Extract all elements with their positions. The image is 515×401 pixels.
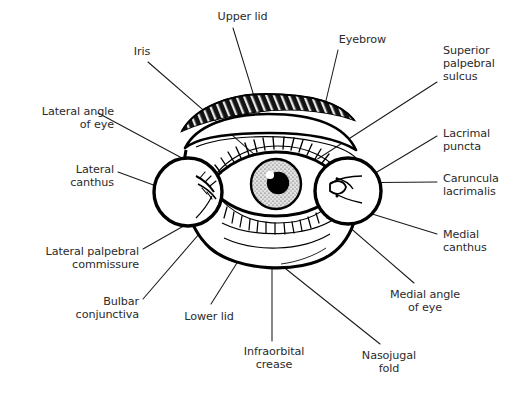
corneal-highlight (266, 171, 274, 179)
medial-canthus-inset (315, 158, 381, 224)
label-bulbar-conjunctiva: Bulbar conjunctiva (58, 295, 139, 321)
label-eyebrow: Eyebrow (325, 33, 400, 46)
label-lower-lid: Lower lid (168, 310, 250, 323)
label-nasojugal-fold: Nasojugal fold (345, 349, 433, 375)
label-infraorbital-crease: Infraorbital crease (225, 345, 323, 371)
label-upper-lid: Upper lid (190, 10, 295, 23)
label-lateral-angle-of-eye: Lateral angle of eye (6, 105, 114, 131)
label-caruncula-lacrimalis: Caruncula lacrimalis (443, 172, 515, 198)
label-lateral-canthus: Lateral canthus (30, 163, 114, 189)
label-lateral-palpebral-commissure: Lateral palpebral commissure (2, 245, 139, 271)
label-lacrimal-puncta: Lacrimal puncta (443, 127, 515, 153)
label-medial-angle-of-eye: Medial angle of eye (373, 288, 477, 314)
eye-illustration (0, 0, 515, 401)
lateral-canthus-inset (154, 158, 222, 226)
leader-eyebrow (324, 50, 338, 109)
label-superior-palpebral-sulcus: Superior palpebral sulcus (443, 44, 515, 84)
label-medial-canthus: Medial canthus (443, 228, 515, 254)
label-iris: Iris (112, 45, 172, 58)
leader-superior-palpebral-sulcus (316, 82, 437, 160)
leader-nasojugal-fold (281, 265, 380, 344)
eye-anatomy-diagram: Upper lid Iris Eyebrow Superior palpebra… (0, 0, 515, 401)
leader-lacrimal-puncta (367, 136, 437, 178)
